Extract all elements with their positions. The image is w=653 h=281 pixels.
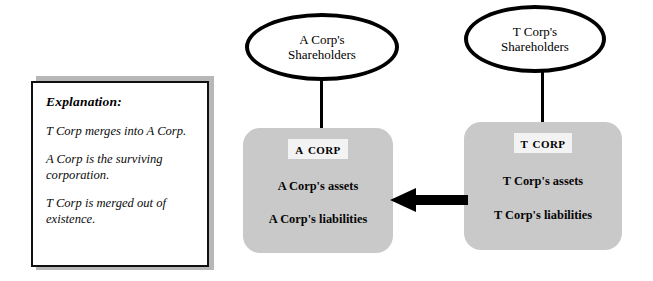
entity-title-target: T Corp: [514, 133, 573, 153]
entity-liabilities-target: T Corp's liabilities: [494, 209, 592, 223]
shareholders-target-line2: Shareholders: [501, 39, 569, 54]
entity-assets-acquirer: A Corp's assets: [278, 180, 359, 194]
shareholders-oval-target: T Corp's Shareholders: [464, 5, 606, 73]
diagram-canvas: Explanation: T Corp merges into A Corp. …: [0, 0, 653, 281]
connector-line-acquirer: [320, 76, 323, 132]
shareholders-oval-target-text: T Corp's Shareholders: [501, 24, 569, 55]
shareholders-acquirer-line2: Shareholders: [288, 47, 356, 62]
explanation-title: Explanation:: [46, 95, 194, 110]
merger-arrow-icon: [390, 186, 468, 214]
shareholders-oval-acquirer-text: A Corp's Shareholders: [288, 32, 356, 63]
shareholders-oval-acquirer: A Corp's Shareholders: [245, 13, 399, 81]
entity-box-target: T Corp T Corp's assets T Corp's liabilit…: [464, 122, 622, 250]
entity-liabilities-acquirer: A Corp's liabilities: [269, 213, 367, 227]
explanation-paragraph-2: A Corp is the surviving corporation.: [46, 151, 194, 183]
entity-title-acquirer: A Corp: [288, 139, 347, 159]
explanation-paragraph-1: T Corp merges into A Corp.: [46, 123, 194, 139]
shareholders-acquirer-line1: A Corp's: [299, 32, 344, 47]
entity-box-acquirer: A Corp A Corp's assets A Corp's liabilit…: [243, 128, 393, 253]
shareholders-target-line1: T Corp's: [513, 24, 557, 39]
explanation-panel: Explanation: T Corp merges into A Corp. …: [31, 81, 209, 267]
entity-assets-target: T Corp's assets: [503, 175, 583, 189]
explanation-paragraph-3: T Corp is merged out of existence.: [46, 195, 194, 227]
connector-line-target: [541, 68, 544, 124]
